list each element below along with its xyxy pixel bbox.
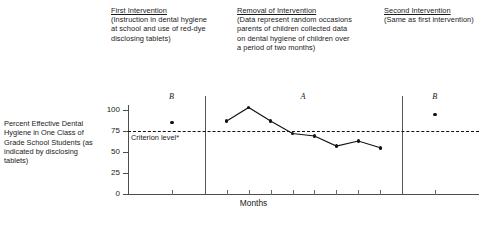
y-tick: 25 — [123, 173, 128, 174]
y-tick-mark — [123, 110, 128, 111]
data-point — [313, 134, 316, 137]
x-tick-mark — [380, 190, 381, 195]
x-tick-mark — [358, 190, 359, 195]
x-tick-mark — [314, 190, 315, 195]
x-tick-mark — [249, 190, 250, 195]
phase-divider-1 — [205, 96, 206, 195]
data-point — [433, 113, 436, 116]
x-axis-label: Months — [0, 198, 483, 208]
chart-figure: First Intervention (Instruction in denta… — [0, 0, 483, 239]
x-tick-mark — [172, 190, 173, 195]
x-axis-line — [128, 194, 479, 195]
data-point — [225, 119, 228, 122]
phase-letter-middle: A — [301, 92, 306, 101]
x-tick-mark — [227, 190, 228, 195]
data-point — [357, 139, 360, 142]
y-tick: 100 — [123, 110, 128, 111]
y-axis-line — [128, 105, 129, 195]
y-tick-label: 100 — [107, 105, 120, 114]
y-tick: 50 — [123, 152, 128, 153]
x-tick-mark — [271, 190, 272, 195]
y-tick-label: 75 — [111, 126, 120, 135]
y-tick-mark — [123, 173, 128, 174]
x-axis-label-text: Months — [240, 198, 267, 208]
y-tick-mark — [123, 152, 128, 153]
phase-letter-second: B — [432, 92, 437, 101]
plot-area: 0255075100 Criterion level* B A B Months — [0, 0, 483, 239]
x-tick-mark — [336, 190, 337, 195]
y-tick-label: 0 — [116, 189, 120, 198]
data-point — [269, 119, 272, 122]
data-point — [247, 106, 250, 109]
x-tick-mark — [435, 190, 436, 195]
y-tick-label: 25 — [111, 168, 120, 177]
x-tick-mark — [293, 190, 294, 195]
y-tick-mark — [123, 194, 128, 195]
data-point — [291, 132, 294, 135]
criterion-level-line — [128, 131, 479, 132]
y-tick: 0 — [123, 194, 128, 195]
data-point — [170, 121, 173, 124]
data-point — [379, 146, 382, 149]
data-point — [335, 144, 338, 147]
phase-divider-2 — [402, 96, 403, 195]
criterion-level-label: Criterion level* — [131, 133, 179, 142]
y-tick-label: 50 — [111, 147, 120, 156]
phase-letter-first: B — [169, 92, 174, 101]
